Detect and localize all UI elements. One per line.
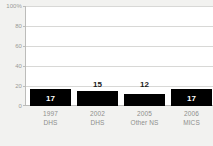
x-category-2005-other-ns: 2005 Other NS [124, 109, 165, 127]
bar-2005-other-ns[interactable] [124, 94, 165, 106]
y-tick-label-20: 20 [15, 83, 22, 89]
x-category-1997-dhs-year: 1997 [30, 109, 71, 118]
y-tick-label-80: 80 [15, 23, 22, 29]
bar-value-2006-mics: 17 [171, 95, 212, 103]
x-category-1997-dhs-source: DHS [30, 118, 71, 127]
bar-1997-dhs[interactable]: 17 [30, 89, 71, 106]
bar-2002-dhs[interactable] [77, 91, 118, 106]
bar-group-2005-other-ns[interactable]: 12 [124, 6, 165, 106]
x-category-2006-mics-year: 2006 [171, 109, 212, 118]
x-category-2006-mics: 2006 MICS [171, 109, 212, 127]
x-category-1997-dhs: 1997 DHS [30, 109, 71, 127]
x-category-2002-dhs-source: DHS [77, 118, 118, 127]
bar-group-2006-mics[interactable]: 17 [171, 6, 212, 106]
y-tick-label-40: 40 [15, 63, 22, 69]
bar-group-1997-dhs[interactable]: 17 [30, 6, 71, 106]
x-category-2005-other-ns-year: 2005 [124, 109, 165, 118]
y-tick-label-100: 100% [6, 3, 22, 9]
bars-layer: 17 15 12 17 [25, 6, 213, 106]
x-category-2005-other-ns-source: Other NS [124, 118, 165, 127]
y-tick-label-60: 60 [15, 43, 22, 49]
y-axis: 100% 80 60 40 20 0 [0, 0, 24, 112]
bar-value-1997-dhs: 17 [30, 95, 71, 103]
x-category-2002-dhs-year: 2002 [77, 109, 118, 118]
bar-2006-mics[interactable]: 17 [171, 89, 212, 106]
x-category-2006-mics-source: MICS [171, 118, 212, 127]
bar-chart: 100% 80 60 40 20 0 17 15 [0, 0, 213, 146]
bar-value-2005-other-ns: 12 [124, 81, 165, 89]
bar-value-2002-dhs: 15 [77, 81, 118, 89]
x-category-2002-dhs: 2002 DHS [77, 109, 118, 127]
x-axis: 1997 DHS 2002 DHS 2005 Other NS 2006 MIC… [25, 109, 213, 139]
y-tick-label-0: 0 [19, 103, 22, 109]
bar-group-2002-dhs[interactable]: 15 [77, 6, 118, 106]
